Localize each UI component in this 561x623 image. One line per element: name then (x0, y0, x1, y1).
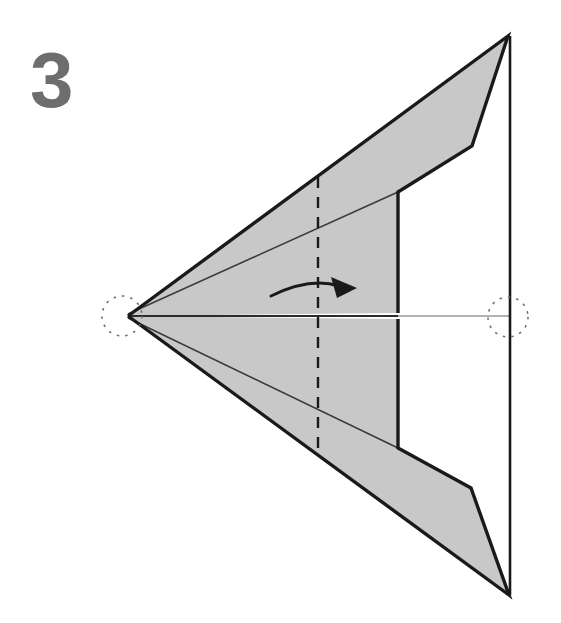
origami-figure (0, 0, 561, 623)
diagram-canvas: 3 (0, 0, 561, 623)
